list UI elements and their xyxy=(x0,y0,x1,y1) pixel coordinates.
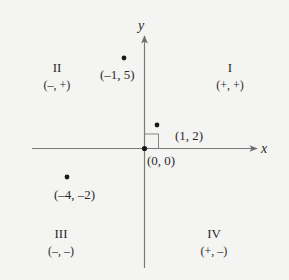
point-neg4-neg2 xyxy=(65,175,70,180)
quadrant-4-numeral: IV xyxy=(207,226,221,241)
quadrant-3-signs: (–, –) xyxy=(48,244,74,258)
coordinate-plane: x y (0, 0) (–1, 5) (1, 2) (–4, –2) I (+,… xyxy=(0,0,289,280)
point-1-2-label: (1, 2) xyxy=(175,128,203,143)
origin-label: (0, 0) xyxy=(147,153,175,168)
quadrant-1-numeral: I xyxy=(228,60,232,75)
point-neg1-5-label: (–1, 5) xyxy=(100,67,135,82)
point-neg4-neg2-label: (–4, –2) xyxy=(54,187,95,202)
point-neg1-5 xyxy=(122,56,127,61)
quadrant-1-signs: (+, +) xyxy=(216,78,244,92)
quadrant-3-numeral: III xyxy=(55,226,68,241)
point-1-2 xyxy=(155,123,160,128)
x-axis-label: x xyxy=(260,141,268,156)
right-angle-marker xyxy=(145,134,159,149)
y-axis-label: y xyxy=(136,18,145,33)
quadrant-4-signs: (+, –) xyxy=(201,244,228,258)
origin-point xyxy=(142,146,147,151)
quadrant-2-numeral: II xyxy=(53,60,62,75)
quadrant-2-signs: (–, +) xyxy=(44,78,71,92)
